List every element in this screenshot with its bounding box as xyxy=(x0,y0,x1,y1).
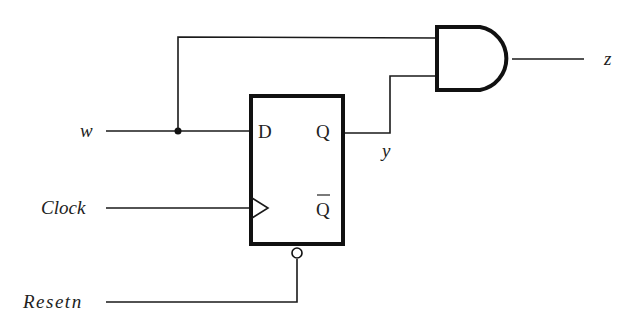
reset-bubble-icon xyxy=(292,248,302,258)
pin-q-label: Q xyxy=(316,121,330,142)
wire-y xyxy=(343,76,437,133)
and-gate xyxy=(437,27,506,90)
signal-z-label: z xyxy=(603,48,612,69)
wire-resetn xyxy=(106,259,297,302)
circuit-diagram: D Q Q w Clock Resetn y z xyxy=(0,0,643,332)
signal-y-label: y xyxy=(380,140,391,161)
wire-w-to-and xyxy=(178,37,437,131)
signal-resetn-label: Resetn xyxy=(22,291,83,312)
clock-triangle-icon xyxy=(252,198,268,218)
signal-clock-label: Clock xyxy=(41,197,86,218)
pin-d-label: D xyxy=(258,121,272,142)
signal-w-label: w xyxy=(80,120,93,141)
d-flip-flop xyxy=(251,96,343,244)
pin-qbar-label: Q xyxy=(316,199,330,220)
